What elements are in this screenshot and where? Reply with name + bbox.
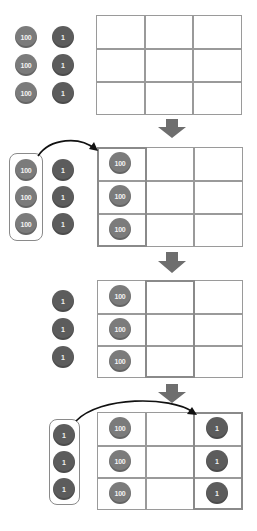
arrows-layer [0, 0, 257, 531]
down-arrow-icon [158, 252, 186, 273]
curved-arrow-icon [38, 141, 98, 156]
curved-arrow-icon [76, 401, 197, 421]
down-arrow-icon [158, 384, 186, 403]
down-arrow-icon [158, 119, 186, 138]
